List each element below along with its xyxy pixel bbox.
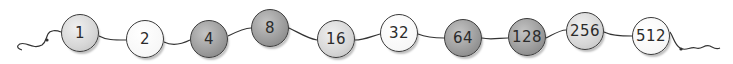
bead-label: 128 xyxy=(512,30,542,45)
bead-label: 64 xyxy=(453,31,473,46)
bead-2: 2 xyxy=(126,20,164,58)
bead-256: 256 xyxy=(566,12,604,50)
bead-1: 1 xyxy=(61,14,99,52)
bead-16: 16 xyxy=(317,20,355,58)
bead-128: 128 xyxy=(508,18,546,56)
bead-4: 4 xyxy=(190,20,228,58)
bead-label: 512 xyxy=(636,29,666,44)
bead-label: 4 xyxy=(204,32,214,47)
string-line xyxy=(0,0,733,64)
bead-label: 1 xyxy=(75,26,85,41)
bead-label: 16 xyxy=(326,32,346,47)
bead-label: 32 xyxy=(389,26,409,41)
bead-label: 8 xyxy=(265,21,275,36)
bead-32: 32 xyxy=(380,14,418,52)
bead-string-diagram: 1 2 4 8 16 32 64 128 256 512 xyxy=(0,0,733,64)
bead-label: 2 xyxy=(140,32,150,47)
bead-64: 64 xyxy=(444,19,482,57)
bead-8: 8 xyxy=(251,9,289,47)
bead-label: 256 xyxy=(570,24,600,39)
bead-512: 512 xyxy=(632,17,670,55)
